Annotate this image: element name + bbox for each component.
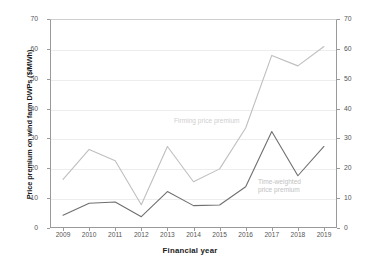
x-tick-mark-2017 (272, 228, 273, 231)
y-tick-label-right-30: 30 (344, 134, 380, 141)
y-tick-label-right-10: 10 (344, 194, 380, 201)
y-tick-mark-right-70 (337, 19, 340, 20)
chart-container: Price premium on wind farm DWPs ($/MWh) … (0, 0, 380, 263)
y-tick-mark-left-0 (47, 228, 50, 229)
y-tick-label-right-40: 40 (344, 105, 380, 112)
y-tick-label-left-0: 0 (0, 224, 38, 231)
x-tick-mark-2012 (141, 228, 142, 231)
x-tick-mark-2009 (63, 228, 64, 231)
y-tick-mark-right-40 (337, 109, 340, 110)
x-tick-mark-2018 (298, 228, 299, 231)
x-tick-mark-2010 (89, 228, 90, 231)
y-tick-label-left-10: 10 (0, 194, 38, 201)
x-tick-label-2019: 2019 (304, 231, 344, 238)
y-tick-label-right-0: 0 (344, 224, 380, 231)
series-line-time-weighted-price-premium (63, 132, 324, 217)
y-tick-mark-right-10 (337, 198, 340, 199)
y-tick-label-right-70: 70 (344, 15, 380, 22)
x-tick-mark-2015 (220, 228, 221, 231)
y-tick-mark-right-60 (337, 49, 340, 50)
x-tick-mark-2011 (115, 228, 116, 231)
x-tick-mark-2019 (324, 228, 325, 231)
y-tick-label-right-60: 60 (344, 45, 380, 52)
x-tick-mark-2016 (246, 228, 247, 231)
y-tick-label-left-50: 50 (0, 75, 38, 82)
x-tick-mark-2013 (167, 228, 168, 231)
y-tick-label-right-50: 50 (344, 75, 380, 82)
series-label-time-weighted-price-premium: Time-weighted price premium (258, 178, 301, 195)
x-axis-title: Financial year (0, 246, 380, 255)
y-tick-label-left-60: 60 (0, 45, 38, 52)
y-tick-label-left-20: 20 (0, 164, 38, 171)
y-tick-label-left-40: 40 (0, 105, 38, 112)
series-label-firming-price-premium: Firming price premium (174, 117, 240, 125)
y-tick-mark-right-20 (337, 168, 340, 169)
y-tick-mark-right-0 (337, 228, 340, 229)
y-tick-label-left-70: 70 (0, 15, 38, 22)
x-tick-mark-2014 (194, 228, 195, 231)
y-tick-label-right-20: 20 (344, 164, 380, 171)
y-tick-label-left-30: 30 (0, 134, 38, 141)
y-tick-mark-right-30 (337, 138, 340, 139)
y-tick-mark-right-50 (337, 79, 340, 80)
